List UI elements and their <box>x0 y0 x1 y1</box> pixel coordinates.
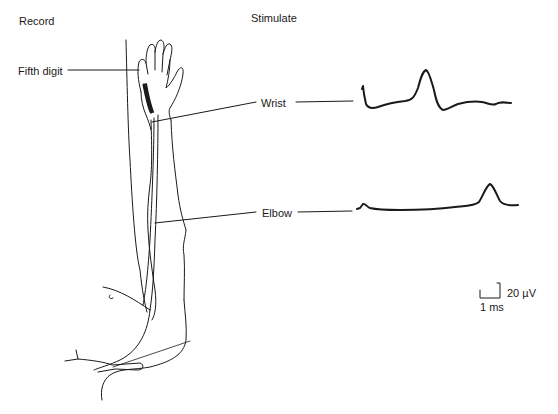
torso-outline <box>126 40 147 312</box>
hand-outline <box>138 40 183 120</box>
scale-bar <box>480 283 500 298</box>
forearm-outline <box>148 120 156 320</box>
wrist-trace <box>362 70 511 110</box>
wrist-leader <box>152 102 256 122</box>
elbow-leader <box>155 212 256 223</box>
arm-diagram <box>0 0 558 414</box>
elbow-trace <box>357 184 518 210</box>
